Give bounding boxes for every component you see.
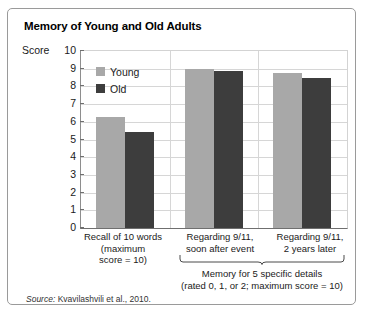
legend-label-old: Old: [110, 83, 126, 95]
category-label-0-line-2: score = 10): [68, 254, 178, 266]
legend-swatch-young-icon: [96, 67, 105, 76]
category-label-2-line-1: 2 years later: [264, 243, 356, 255]
legend-swatch-old-icon: [96, 84, 105, 93]
legend-item-young: Young: [96, 64, 139, 79]
category-label-1-line-1: soon after event: [174, 243, 266, 255]
y-tick-mark-0: [80, 227, 84, 228]
category-label-0: Recall of 10 words(maximumscore = 10): [68, 231, 178, 266]
group-caption-line-2: (rated 0, 1, or 2; maximum score = 10): [163, 280, 361, 292]
y-axis-tick-labels: 012345678910: [48, 50, 76, 227]
bar-group-2: [258, 51, 347, 228]
source-text: Kvavilashvili et al., 2010.: [58, 294, 151, 304]
legend-item-old: Old: [96, 81, 139, 96]
source-label: Source:: [26, 294, 55, 304]
figure-frame: Memory of Young and Old Adults Score 012…: [7, 8, 356, 305]
category-label-2-line-0: Regarding 9/11,: [264, 231, 356, 243]
y-tick-label-5: 5: [54, 134, 76, 144]
source-line: Source: Kvavilashvili et al., 2010.: [26, 294, 151, 304]
y-tick-label-2: 2: [54, 187, 76, 197]
y-tick-label-3: 3: [54, 169, 76, 179]
category-label-0-line-0: Recall of 10 words: [68, 231, 178, 243]
y-tick-mark-10: [80, 50, 84, 51]
chart-legend: Young Old: [96, 64, 139, 98]
bar-old-2: [302, 78, 331, 228]
curly-brace-icon: [179, 254, 345, 265]
y-tick-mark-9: [80, 68, 84, 69]
y-tick-mark-4: [80, 156, 84, 157]
y-tick-label-9: 9: [54, 63, 76, 73]
group-caption: Memory for 5 specific details (rated 0, …: [163, 268, 361, 291]
group-caption-line-1: Memory for 5 specific details: [163, 268, 361, 280]
y-tick-mark-7: [80, 103, 84, 104]
y-tick-mark-3: [80, 174, 84, 175]
bar-group-1: [170, 51, 259, 228]
y-tick-mark-6: [80, 121, 84, 122]
y-tick-mark-8: [80, 85, 84, 86]
y-tick-label-6: 6: [54, 116, 76, 126]
category-label-1: Regarding 9/11,soon after event: [174, 231, 266, 254]
y-tick-mark-2: [80, 192, 84, 193]
category-label-0-line-1: (maximum: [68, 243, 178, 255]
category-label-2: Regarding 9/11,2 years later: [264, 231, 356, 254]
y-tick-label-7: 7: [54, 98, 76, 108]
bar-old-0: [125, 132, 154, 228]
legend-label-young: Young: [110, 66, 139, 78]
y-tick-mark-1: [80, 209, 84, 210]
category-label-1-line-0: Regarding 9/11,: [174, 231, 266, 243]
y-axis-title: Score: [22, 44, 49, 56]
bar-old-1: [214, 71, 243, 228]
chart-title: Memory of Young and Old Adults: [24, 20, 202, 32]
y-tick-label-4: 4: [54, 151, 76, 161]
bar-young-1: [185, 69, 214, 228]
bar-young-2: [273, 73, 302, 228]
y-tick-label-8: 8: [54, 80, 76, 90]
y-tick-label-1: 1: [54, 204, 76, 214]
y-tick-mark-5: [80, 139, 84, 140]
y-tick-label-10: 10: [54, 45, 76, 55]
bar-young-0: [96, 117, 125, 229]
